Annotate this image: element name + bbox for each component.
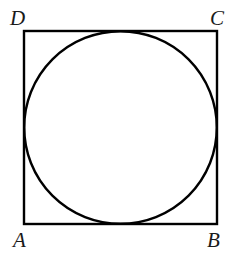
vertex-label-b: B: [207, 230, 220, 251]
vertex-label-d: D: [10, 8, 25, 29]
vertex-label-a: A: [13, 230, 26, 251]
vertex-label-c: C: [210, 8, 224, 29]
inscribed-circle-outline: [24, 31, 217, 224]
figure-canvas: [0, 0, 245, 257]
geometry-figure: D C A B: [0, 0, 245, 257]
